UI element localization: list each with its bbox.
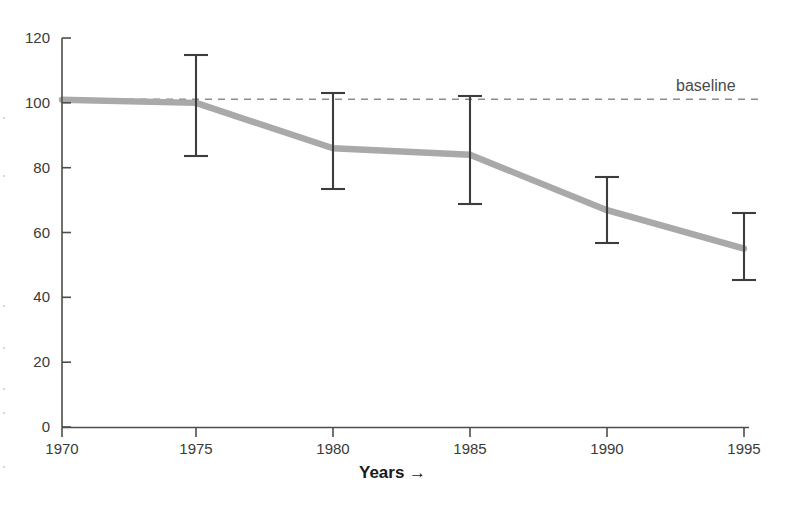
x-tick-label-1980: 1980 [303, 440, 363, 457]
error-bars [184, 55, 756, 280]
x-tick-label-1995: 1995 [714, 440, 774, 457]
baseline-annotation-label: baseline [676, 77, 736, 95]
error-bar-1980 [321, 93, 345, 189]
y-tick-label-0: 0 [6, 418, 50, 435]
x-axis-ticks [62, 428, 744, 438]
x-tick-label-1990: 1990 [577, 440, 637, 457]
y-tick-label-100: 100 [6, 94, 50, 111]
y-tick-label-60: 60 [6, 224, 50, 241]
x-tick-label-1970: 1970 [32, 440, 92, 457]
x-tick-label-1975: 1975 [166, 440, 226, 457]
x-tick-label-1985: 1985 [440, 440, 500, 457]
scan-speck [3, 412, 5, 414]
y-tick-label-40: 40 [6, 288, 50, 305]
y-tick-label-20: 20 [6, 353, 50, 370]
chart-plot-area [0, 0, 786, 513]
y-tick-label-120: 120 [6, 29, 50, 46]
error-bar-1985 [458, 96, 482, 204]
scan-speck [3, 388, 5, 390]
data-series-line [62, 100, 744, 249]
y-axis-ticks [62, 38, 71, 427]
y-tick-label-80: 80 [6, 159, 50, 176]
scan-speck [3, 117, 5, 119]
scan-speck [3, 347, 5, 349]
scan-speck [3, 175, 5, 177]
scan-speck [3, 466, 5, 468]
x-axis-title: Years → [359, 463, 426, 483]
scan-speck [3, 305, 5, 307]
chart-figure: 120 100 80 60 40 20 0 1970 1975 1980 198… [0, 0, 786, 513]
